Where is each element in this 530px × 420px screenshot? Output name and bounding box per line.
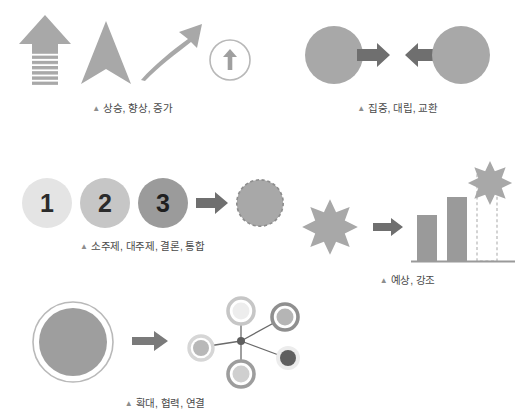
caption-expand: ▲확대, 협력, 연결: [0, 395, 330, 410]
caption-marker-icon: ▲: [357, 104, 365, 113]
expand-right-arrow-icon: [132, 331, 168, 351]
panel-forecast: ▲예상, 강조: [285, 160, 530, 265]
caption-marker-icon: ▲: [125, 399, 133, 408]
right-arrow-icon: [357, 43, 390, 67]
converge-group-icon: [305, 26, 490, 84]
step-circle-2: 2: [80, 178, 130, 228]
network-diagram-icon: [188, 295, 316, 387]
chevron-up-arrow-icon: [80, 20, 132, 86]
bar-1: [417, 215, 437, 261]
caption-text: 예상, 강조: [391, 274, 436, 286]
dashed-merge-circle-icon: [235, 178, 285, 228]
forecast-right-arrow-icon: [373, 218, 403, 236]
panel-rise-art: [0, 14, 265, 92]
node-bottom-icon: [228, 361, 254, 387]
caption-text: 확대, 협력, 연결: [136, 397, 206, 409]
panel-rise: ▲상승, 향상, 증가: [0, 14, 265, 92]
caption-converge: ▲집중, 대립, 교환: [265, 100, 530, 115]
curved-growth-arrow-icon: [139, 20, 203, 82]
caption-forecast: ▲예상, 강조: [285, 272, 530, 287]
panel-converge: ▲집중, 대립, 교환: [265, 14, 530, 92]
caption-text: 집중, 대립, 교환: [368, 102, 438, 114]
right-circle-icon: [432, 26, 490, 84]
node-lower-right-icon: [276, 346, 300, 370]
circled-up-arrow-icon: [208, 38, 252, 82]
step-number-3: 3: [156, 189, 170, 217]
caption-marker-icon: ▲: [380, 276, 388, 285]
caption-marker-icon: ▲: [80, 242, 88, 251]
striped-up-arrow-icon: [18, 14, 72, 86]
hub-node-icon: [237, 337, 245, 345]
caption-sequence: ▲소주제, 대주제, 결론, 통합: [0, 238, 285, 253]
left-circle-icon: [305, 26, 363, 84]
panel-expand-art: [0, 295, 330, 387]
panel-sequence: 1 2 3: [0, 170, 285, 232]
step-circle-3: 3: [138, 178, 188, 228]
caption-text: 상승, 향상, 증가: [103, 102, 173, 114]
burst-star-icon: [301, 198, 359, 256]
ringed-circle-icon: [32, 301, 114, 383]
node-upper-right-icon: [272, 304, 298, 330]
step-circle-1: 1: [22, 178, 72, 228]
node-left-icon: [189, 336, 213, 360]
panel-sequence-art: 1 2 3: [0, 170, 285, 232]
caption-marker-icon: ▲: [92, 104, 100, 113]
caption-text: 소주제, 대주제, 결론, 통합: [91, 240, 205, 252]
burst-star-highlight-icon: [467, 160, 513, 206]
caption-rise: ▲상승, 향상, 증가: [0, 100, 265, 115]
panel-forecast-art: [285, 160, 530, 265]
panel-expand: ▲확대, 협력, 연결: [0, 295, 330, 387]
step-number-2: 2: [98, 189, 112, 217]
sequence-right-arrow-icon: [196, 192, 228, 214]
bar-2: [447, 197, 467, 261]
pictogram-sheet: ▲상승, 향상, 증가 ▲집중, 대립, 교환 1: [0, 0, 530, 420]
node-top-icon: [228, 298, 254, 324]
panel-converge-art: [265, 14, 530, 92]
step-number-1: 1: [40, 189, 54, 217]
